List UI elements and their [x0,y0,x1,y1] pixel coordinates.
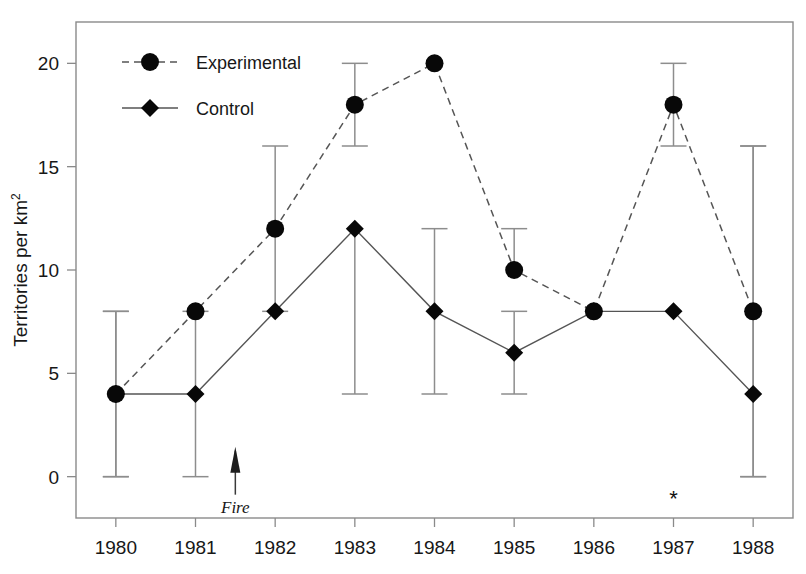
line-chart-svg: 05101520 1980198119821983198419851986198… [0,0,806,574]
data-point-circle [266,220,284,238]
significance-star-label: * [669,486,678,511]
x-tick-label: 1984 [413,537,456,558]
y-tick-label: 0 [48,467,59,488]
x-tick-label: 1988 [732,537,774,558]
x-tick-label: 1985 [493,537,535,558]
data-point-circle [426,54,444,72]
legend-label-experimental: Experimental [196,53,301,73]
data-point-circle [744,302,762,320]
y-tick-label: 20 [38,53,59,74]
data-point-circle [346,96,364,114]
chart-figure: 05101520 1980198119821983198419851986198… [0,0,806,574]
y-axis-title-text: Territories per km [10,200,31,347]
chart-background [0,0,806,574]
data-point-circle [585,302,603,320]
fire-label: Fire [220,498,250,517]
x-tick-label: 1981 [174,537,216,558]
data-point-circle [107,385,125,403]
y-tick-label: 10 [38,260,59,281]
y-tick-label: 15 [38,157,59,178]
x-tick-label: 1982 [254,537,296,558]
data-point-circle [505,261,523,279]
x-tick-label: 1983 [334,537,376,558]
y-axis-title: Territories per km2 [9,193,31,347]
legend-marker-circle-icon [141,53,159,71]
y-axis-title-exponent: 2 [9,193,23,200]
y-tick-label: 5 [48,363,59,384]
x-tick-label: 1980 [95,537,137,558]
svg-text:Territories per km2: Territories per km2 [9,193,31,347]
legend-label-control: Control [196,99,254,119]
x-tick-label: 1986 [573,537,615,558]
x-tick-label: 1987 [652,537,694,558]
data-point-circle [665,96,683,114]
legend-item-experimental: Experimental [122,53,301,73]
data-point-circle [187,302,205,320]
